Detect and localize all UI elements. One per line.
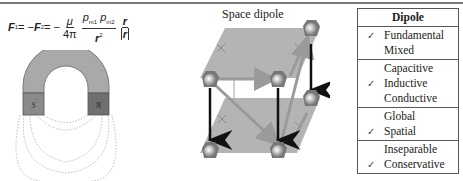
check-icon	[358, 109, 384, 124]
horseshoe-magnet-diagram: S N	[0, 50, 160, 181]
table-row: Conductive	[358, 91, 458, 106]
check-icon: ✓	[358, 157, 384, 172]
table-row: ✓Fundamental	[358, 28, 458, 43]
row-label: Inseparable	[384, 142, 458, 157]
table-header: Dipole	[358, 9, 458, 27]
row-label: Inductive	[384, 76, 458, 91]
mu-symbol: μ	[67, 15, 73, 27]
row-label: Conductive	[384, 91, 458, 106]
check-icon: ✓	[358, 124, 384, 139]
group-behavior: Capacitive ✓Inductive Conductive	[358, 60, 458, 108]
magnet-body	[23, 50, 109, 93]
row-label: Mixed	[384, 43, 458, 58]
north-label: N	[95, 101, 102, 110]
row-label: Global	[384, 109, 458, 124]
four-pi: 4π	[62, 28, 78, 40]
space-dipole-cube	[180, 18, 330, 178]
table-row: ✓Inductive	[358, 76, 458, 91]
row-label: Fundamental	[384, 28, 458, 43]
r-magnitude: r	[123, 28, 127, 40]
r-squared: 2	[99, 32, 102, 38]
table-row: ✓Conservative	[358, 157, 458, 172]
check-icon	[358, 43, 384, 58]
equals-minus-1: = −	[18, 21, 34, 33]
unit-vector: r r	[120, 15, 130, 40]
top-rule	[0, 2, 463, 4]
row-label: Capacitive	[384, 61, 458, 76]
force-symbol-2: F	[34, 21, 41, 33]
pm2-sub: m2	[106, 19, 114, 25]
mu-over-4pi: μ 4π	[62, 15, 78, 40]
group-energy: Inseparable ✓Conservative	[358, 141, 458, 173]
table-row: ✓Spatial	[358, 124, 458, 139]
equals-minus-2: = −	[44, 21, 60, 33]
table-row: Capacitive	[358, 61, 458, 76]
group-origin: ✓Fundamental Mixed	[358, 27, 458, 60]
pm1-sub: m1	[89, 19, 97, 25]
check-icon: ✓	[358, 28, 384, 43]
check-icon	[358, 142, 384, 157]
coulomb-magnetic-force-formula: F1 = − F2 = − μ 4π pm1 pm2 r2 r r	[8, 10, 132, 44]
row-label: Conservative	[384, 157, 458, 172]
r-vector: r	[123, 15, 127, 27]
table-row: Global	[358, 109, 458, 124]
group-scope: Global ✓Spatial	[358, 108, 458, 141]
table-row: Mixed	[358, 43, 458, 58]
field-lines	[16, 115, 116, 181]
dipole-classification-table: Dipole ✓Fundamental Mixed Capacitive ✓In…	[357, 8, 459, 174]
check-icon	[358, 91, 384, 106]
south-label: S	[32, 101, 36, 110]
pole-product-over-r2: pm1 pm2 r2	[82, 11, 116, 44]
check-icon: ✓	[358, 76, 384, 91]
table-row: Inseparable	[358, 142, 458, 157]
top-plane	[200, 28, 320, 78]
row-label: Spatial	[384, 124, 458, 139]
check-icon	[358, 61, 384, 76]
force-symbol-1: F	[8, 21, 15, 33]
